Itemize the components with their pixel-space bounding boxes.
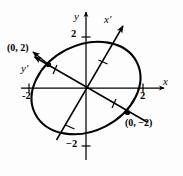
tick-label-y-negative: −2 (66, 139, 77, 150)
tick-label-y-positive: 2 (71, 29, 76, 40)
y-axis-label: y (74, 11, 79, 22)
tick-label-x-negative: -2 (22, 91, 31, 102)
x-prime-tick-2 (66, 125, 75, 129)
figure-canvas (0, 0, 183, 176)
tick-label-x-positive: 2 (140, 91, 145, 102)
point-label-0-neg2: (0, −2) (125, 118, 152, 128)
y-prime-axis (35, 57, 148, 122)
x-axis-label: x (163, 76, 168, 87)
y-prime-axis-label: y' (21, 63, 28, 74)
y-prime-axis-line (35, 57, 148, 122)
marker-dot-0-neg2 (125, 110, 130, 115)
point-label-0-2: (0, 2) (7, 43, 29, 53)
x-prime-axis-label: x' (104, 14, 111, 25)
conic-figure: x y x' y' 2 −2 -2 2 (0, 2) (0, −2) (0, 0, 183, 176)
